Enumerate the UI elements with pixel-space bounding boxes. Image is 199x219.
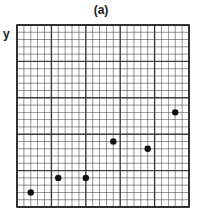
data-point-5 [145,146,151,152]
data-point-2 [55,175,61,181]
grid [17,25,189,207]
data-point-3 [83,175,89,181]
data-points [28,109,179,195]
y-axis-label: y [3,27,10,41]
data-point-1 [28,189,34,195]
chart-title: (a) [94,3,109,17]
data-point-4 [110,138,116,144]
plot-frame [17,25,189,207]
scatter-chart: (a) y [0,0,199,219]
data-point-6 [172,109,178,115]
